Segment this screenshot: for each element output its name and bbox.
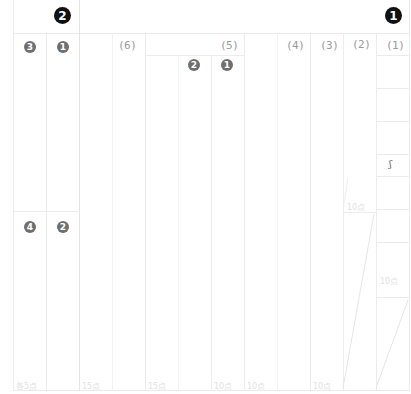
question-label-5: (5) [220, 39, 238, 52]
section2-item-4: 4 [24, 221, 36, 233]
score-q2: 10点 [347, 201, 365, 212]
score-q3: 10点 [313, 380, 331, 391]
question-label-6: (6) [118, 39, 136, 52]
score-q1: 10点 [380, 275, 398, 286]
question-label-3: (3) [320, 39, 338, 52]
score-q6-extra: 15点 [148, 380, 166, 391]
question-label-2: (2) [352, 38, 370, 51]
col1-glyph: ʃ [389, 158, 392, 169]
section2-item-3: 3 [24, 41, 36, 53]
section2-item-1: 1 [57, 41, 69, 53]
diagonal-strike-lines [0, 0, 411, 394]
score-q6: 15点 [82, 380, 100, 391]
question-label-4: (4) [286, 39, 304, 52]
section2-item-2: 2 [57, 221, 69, 233]
score-q5: 10点 [214, 380, 232, 391]
section2-item-4-label: 4 [27, 223, 33, 232]
q5-subitem-2: 2 [188, 59, 200, 71]
q5-subitem-1-label: 1 [224, 61, 230, 70]
section2-item-2-label: 2 [60, 223, 66, 232]
question-label-1: (1) [386, 39, 404, 52]
score-q4: 10点 [247, 380, 265, 391]
score-section2: 各5点 [16, 380, 37, 391]
section-marker-2-label: 2 [58, 10, 66, 22]
q5-subitem-2-label: 2 [191, 61, 197, 70]
section-marker-1: 1 [385, 7, 402, 24]
section-marker-2: 2 [54, 7, 71, 24]
section-marker-1-label: 1 [389, 10, 397, 22]
q5-subitem-1: 1 [221, 59, 233, 71]
section2-item-3-label: 3 [27, 43, 33, 52]
section2-item-1-label: 1 [60, 43, 66, 52]
